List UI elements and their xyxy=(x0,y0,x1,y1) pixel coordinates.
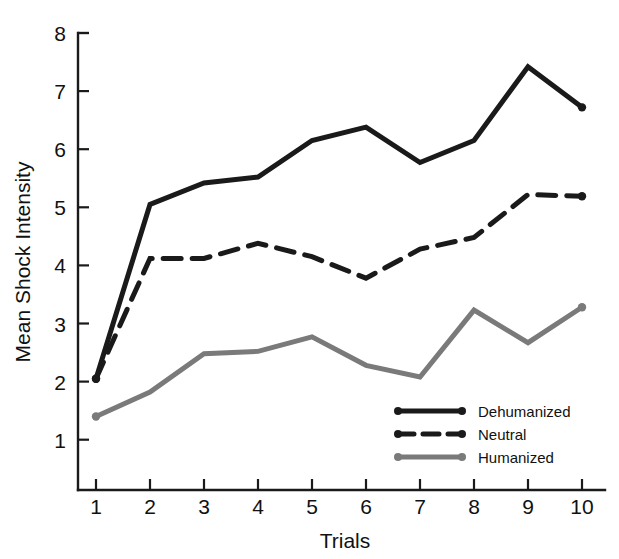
y-tick-label: 7 xyxy=(54,80,66,103)
legend-label: Neutral xyxy=(478,426,526,443)
y-axis-tick-labels: 12345678 xyxy=(54,22,66,452)
legend-swatch-dot-left xyxy=(394,407,402,415)
legend-label: Humanized xyxy=(478,449,554,466)
legend-swatch-dot-right xyxy=(458,453,466,461)
series-neutral xyxy=(92,192,586,383)
data-point xyxy=(92,412,100,420)
y-tick-label: 3 xyxy=(54,313,66,336)
x-tick-label: 10 xyxy=(570,495,593,518)
y-tick-label: 1 xyxy=(54,429,66,452)
legend-swatch-dot-left xyxy=(394,453,402,461)
x-axis-ticks xyxy=(96,479,582,490)
y-axis-title: Mean Shock Intensity xyxy=(11,161,34,362)
line-chart: 12345678 12345678910 Mean Shock Intensit… xyxy=(0,0,619,559)
legend-swatch-dot-right xyxy=(458,407,466,415)
y-tick-label: 5 xyxy=(54,196,66,219)
x-axis-tick-labels: 12345678910 xyxy=(90,495,594,518)
y-tick-label: 8 xyxy=(54,22,66,45)
x-tick-label: 1 xyxy=(90,495,102,518)
legend-swatch-dot-right xyxy=(458,430,466,438)
axes-group xyxy=(78,33,605,490)
legend-item-neutral: Neutral xyxy=(394,426,526,443)
y-tick-label: 6 xyxy=(54,138,66,161)
legend-label: Dehumanized xyxy=(478,403,571,420)
x-tick-label: 5 xyxy=(306,495,318,518)
x-tick-label: 2 xyxy=(144,495,156,518)
legend-item-humanized: Humanized xyxy=(394,449,554,466)
chart-container: 12345678 12345678910 Mean Shock Intensit… xyxy=(0,0,619,559)
x-tick-label: 8 xyxy=(468,495,480,518)
x-axis-title: Trials xyxy=(320,529,371,552)
chart-legend: DehumanizedNeutralHumanized xyxy=(394,403,571,466)
data-series-group xyxy=(92,67,586,421)
data-point xyxy=(578,103,586,111)
x-tick-label: 7 xyxy=(414,495,426,518)
data-point xyxy=(578,303,586,311)
data-point xyxy=(92,374,100,382)
x-tick-label: 9 xyxy=(522,495,534,518)
legend-item-dehumanized: Dehumanized xyxy=(394,403,571,420)
legend-swatch-dot-left xyxy=(394,430,402,438)
x-tick-label: 4 xyxy=(252,495,264,518)
x-tick-label: 6 xyxy=(360,495,372,518)
y-tick-label: 2 xyxy=(54,371,66,394)
y-tick-label: 4 xyxy=(54,254,66,277)
series-line xyxy=(96,307,582,416)
x-tick-label: 3 xyxy=(198,495,210,518)
y-axis-ticks xyxy=(78,33,89,440)
data-point xyxy=(578,192,586,200)
